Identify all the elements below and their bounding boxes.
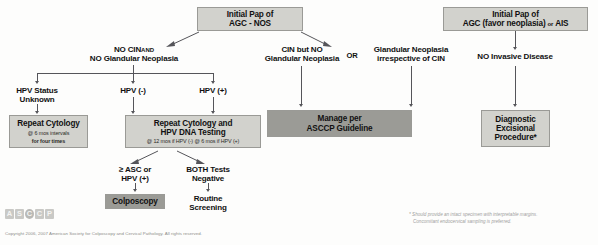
logo-letter-s: S xyxy=(15,209,24,219)
node-diagnostic-excisional-procedure[interactable]: Diagnostic Excisional Procedure* xyxy=(481,110,550,147)
label-hpv-status-line1: HPV Status xyxy=(16,86,58,95)
arrowhead-repeat-cytology-hpv-right xyxy=(211,111,215,114)
node-title-line2: AGC (favor neoplasia) or AIS xyxy=(463,19,569,28)
label-routine-line2: Screening xyxy=(189,203,226,212)
node-title-line1: Repeat Cytology and xyxy=(154,119,233,128)
node-initial-pap-agc-nos[interactable]: Initial Pap of AGC - NOS xyxy=(197,7,303,31)
connector-repeat-hpv-to-asc-or-hpv-pos xyxy=(128,149,160,165)
arrowhead-hpv-neg xyxy=(131,81,135,84)
arrowhead-diagnostic-excisional xyxy=(513,104,517,107)
arrowhead-manage-asccp-right xyxy=(409,104,413,107)
label-routine-line1: Routine xyxy=(194,194,223,203)
arrowhead-manage-asccp-left xyxy=(299,104,303,107)
connector-cin-to-manage-asccp xyxy=(301,66,302,105)
node-title-line2: AGC - NOS xyxy=(229,19,271,28)
label-no-glandular-neoplasia-text: NO Glandular Neoplasia xyxy=(90,54,178,63)
asccp-logo: A S C C P xyxy=(5,209,54,219)
node-subtitle: @ 12 mos if HPV (-) @ 6 mos if HPV (+) xyxy=(147,138,240,144)
node-colposcopy[interactable]: Colposcopy xyxy=(105,194,165,209)
connector-repeat-hpv-to-both-tests-negative xyxy=(175,149,207,165)
logo-letter-p: P xyxy=(45,209,54,219)
logo-letter-a: A xyxy=(5,209,14,219)
arrowhead-hpv-pos xyxy=(211,81,215,84)
logo-letter-c2: C xyxy=(35,209,44,219)
connector-hpv-neg-to-repeat-cytology-hpv xyxy=(133,97,134,112)
flowchart-canvas: Initial Pap of AGC - NOS NO CINAND NO Gl… xyxy=(0,0,598,245)
node-repeat-cytology[interactable]: Repeat Cytology @ 6 mos intervals for fo… xyxy=(9,115,88,148)
label-asc-or-hpv-positive: ≥ ASC or HPV (+) xyxy=(104,165,166,184)
label-no-cin-no-glandular-neoplasia: NO CINAND NO Glandular Neoplasia xyxy=(66,45,202,64)
footnote-line2: Concomitant endocervical sampling is pre… xyxy=(409,218,537,225)
label-and-text: AND xyxy=(141,47,154,53)
node-title-line2: ASCCP Guideline xyxy=(307,124,373,133)
label-cin-but-no-glandular-neoplasia: CIN but NO Glandular Neoplasia xyxy=(254,45,350,64)
label-asc-line1: ≥ ASC or xyxy=(119,165,151,174)
connector-hpv-pos-to-repeat-cytology-hpv xyxy=(213,97,214,112)
node-title: Colposcopy xyxy=(112,197,157,206)
node-title: Repeat Cytology xyxy=(17,119,79,128)
label-hpv-positive-text: HPV (+) xyxy=(199,86,227,95)
label-glandular-neoplasia-irrespective: Glandular Neoplasia irrespective of CIN xyxy=(360,45,462,64)
connector-no-cin-branch-bar xyxy=(37,73,213,74)
copyright-notice: Copyright 2006, 2007 American Society fo… xyxy=(5,231,202,236)
label-hpv-negative-text: HPV (-) xyxy=(120,86,146,95)
label-both-tests-negative: BOTH Tests Negative xyxy=(174,165,242,184)
arrowhead-routine-screening xyxy=(206,189,210,192)
label-cin-line1: CIN but NO xyxy=(281,45,322,54)
node-title-line1: Initial Pap of xyxy=(227,10,274,19)
connector-no-cin-stem xyxy=(133,65,134,73)
label-or-text: OR xyxy=(346,51,357,60)
label-gn-line2: irrespective of CIN xyxy=(377,54,445,63)
label-no-invasive-disease: NO Invasive Disease xyxy=(455,52,575,61)
node-title-line1: Manage per xyxy=(318,114,362,123)
label-hpv-positive: HPV (+) xyxy=(185,86,241,95)
footnote-line1: * Should provide an intact specimen with… xyxy=(409,211,537,218)
node-title-line2: HPV DNA Testing xyxy=(160,128,225,137)
label-gn-line1: Glandular Neoplasia xyxy=(374,45,449,54)
label-cin-line2: Glandular Neoplasia xyxy=(265,54,340,63)
node-title-or-text: or xyxy=(548,21,554,27)
label-both-tests-line1: BOTH Tests xyxy=(186,165,230,174)
node-title-line2: Excisional xyxy=(496,124,535,133)
label-no-invasive-text: NO Invasive Disease xyxy=(477,52,552,61)
node-title-line1: Diagnostic xyxy=(495,115,535,124)
connector-gn-to-manage-asccp xyxy=(411,66,412,105)
arrowhead-repeat-cytology xyxy=(35,111,39,114)
label-hpv-status-unknown: HPV Status Unknown xyxy=(4,86,70,105)
node-title-agc-text: AGC (favor neoplasia) xyxy=(463,19,546,28)
node-subtitle-line1: @ 6 mos intervals xyxy=(28,130,70,136)
label-routine-screening: Routine Screening xyxy=(178,194,238,213)
footnote-text: * Should provide an intact specimen with… xyxy=(409,211,537,225)
arrowhead-no-invasive-disease xyxy=(513,47,517,50)
label-no-cin-text: NO CIN xyxy=(114,45,141,54)
node-title-line1: Initial Pap of xyxy=(492,10,539,19)
node-initial-pap-agc-favor-neoplasia-ais[interactable]: Initial Pap of AGC (favor neoplasia) or … xyxy=(443,7,588,31)
connector-no-invasive-to-diagnostic-excisional xyxy=(515,66,516,105)
connector-agc-favor-to-no-invasive xyxy=(515,31,516,48)
label-hpv-negative: HPV (-) xyxy=(105,86,161,95)
node-manage-per-asccp-guideline[interactable]: Manage per ASCCP Guideline xyxy=(267,110,412,137)
arrowhead-repeat-cytology-hpv-left xyxy=(131,111,135,114)
node-title-line3: Procedure* xyxy=(494,133,536,142)
arrowhead-hpv-unknown xyxy=(35,81,39,84)
node-title-ais-text: AIS xyxy=(555,19,568,28)
arrowhead-colposcopy xyxy=(133,189,137,192)
logo-letter-c1: C xyxy=(25,209,34,219)
node-repeat-cytology-hpv-dna-testing[interactable]: Repeat Cytology and HPV DNA Testing @ 12… xyxy=(125,115,261,148)
node-subtitle-line2: for four times xyxy=(32,138,65,144)
